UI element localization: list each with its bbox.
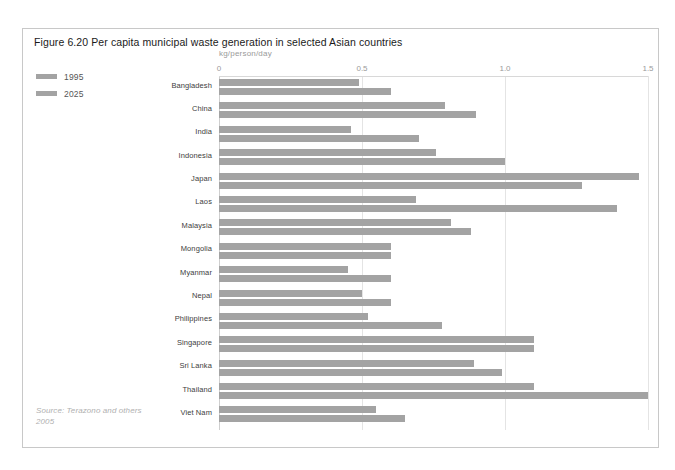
figure-title: Figure 6.20 Per capita municipal waste g… [34,36,402,48]
bar-1995 [219,266,348,273]
chart-row: Bangladesh [219,77,648,100]
bar-2025 [219,322,442,329]
bar-2025 [219,275,391,282]
category-label: China [192,104,212,113]
source-note: Source: Terazono and others 2005 [36,405,156,427]
chart-row: Mongolia [219,241,648,264]
chart-row: Singapore [219,334,648,357]
bar-1995 [219,173,639,180]
chart-row: Malaysia [219,217,648,240]
bar-2025 [219,88,391,95]
chart-row: Nepal [219,288,648,311]
legend-label: 1995 [64,72,84,82]
bar-1995 [219,243,391,250]
gridline [648,76,649,430]
bar-1995 [219,196,416,203]
bar-2025 [219,228,471,235]
category-label: Philippines [175,314,212,323]
bar-1995 [219,313,368,320]
category-label: Nepal [192,291,212,300]
category-label: Indonesia [179,151,212,160]
chart-row: Laos [219,194,648,217]
bar-2025 [219,369,502,376]
chart-row: Myanmar [219,264,648,287]
chart-plot-area: kg/person/day 00.51.01.5 BangladeshChina… [219,49,648,430]
x-axis-tick-labels: 00.51.01.5 [219,64,648,75]
legend-item-1995: 1995 [36,70,84,83]
bar-1995 [219,219,451,226]
x-tick-label: 1.0 [499,64,510,73]
chart-row: Japan [219,171,648,194]
chart-row: India [219,124,648,147]
bar-1995 [219,383,534,390]
bar-1995 [219,336,534,343]
category-label: Thailand [182,385,212,394]
category-label: Japan [191,174,212,183]
chart-row: China [219,100,648,123]
figure-panel: Figure 6.20 Per capita municipal waste g… [22,28,659,448]
chart-bar-rows: BangladeshChinaIndiaIndonesiaJapanLaosMa… [219,77,648,428]
category-label: Viet Nam [180,408,212,417]
bar-2025 [219,111,476,118]
category-label: India [195,127,212,136]
x-tick-label: 1.5 [642,64,653,73]
bar-2025 [219,392,648,399]
bar-2025 [219,252,391,259]
chart-legend: 19952025 [36,70,84,104]
x-tick-label: 0 [217,64,221,73]
bar-2025 [219,299,391,306]
category-label: Singapore [177,338,212,347]
category-label: Myanmar [180,268,212,277]
chart-row: Philippines [219,311,648,334]
bar-1995 [219,102,445,109]
bar-1995 [219,360,474,367]
chart-row: Indonesia [219,147,648,170]
legend-swatch-icon [36,91,57,96]
bar-1995 [219,149,436,156]
bar-2025 [219,415,405,422]
category-label: Mongolia [181,244,212,253]
legend-label: 2025 [64,89,84,99]
category-label: Sri Lanka [179,361,212,370]
chart-row: Sri Lanka [219,358,648,381]
bar-1995 [219,126,351,133]
x-axis-title: kg/person/day [219,49,272,58]
legend-item-2025: 2025 [36,87,84,100]
bar-2025 [219,158,505,165]
bar-2025 [219,205,617,212]
bar-1995 [219,290,362,297]
category-label: Bangladesh [171,81,212,90]
bar-1995 [219,406,376,413]
bar-2025 [219,135,419,142]
category-label: Laos [195,197,212,206]
bar-2025 [219,345,534,352]
bar-1995 [219,79,359,86]
category-label: Malaysia [182,221,212,230]
legend-swatch-icon [36,74,57,79]
x-tick-label: 0.5 [356,64,367,73]
chart-row: Viet Nam [219,404,648,427]
chart-row: Thailand [219,381,648,404]
bar-2025 [219,182,582,189]
